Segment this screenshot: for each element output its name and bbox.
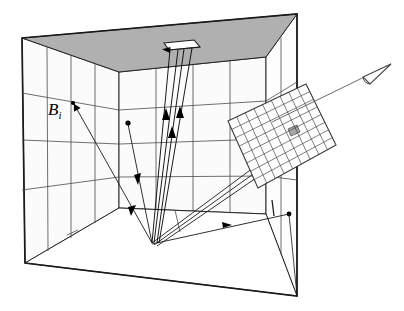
radiosity-label-subscript: i bbox=[59, 109, 62, 121]
figure-canvas: Bi bbox=[0, 0, 404, 311]
radiosity-label: Bi bbox=[48, 100, 62, 121]
eye-outline bbox=[363, 64, 391, 84]
radiosity-label-symbol: B bbox=[48, 100, 59, 119]
scene-illustration bbox=[0, 0, 404, 311]
